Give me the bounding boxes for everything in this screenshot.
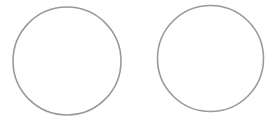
background [0,0,274,121]
diagram-canvas [0,0,274,121]
